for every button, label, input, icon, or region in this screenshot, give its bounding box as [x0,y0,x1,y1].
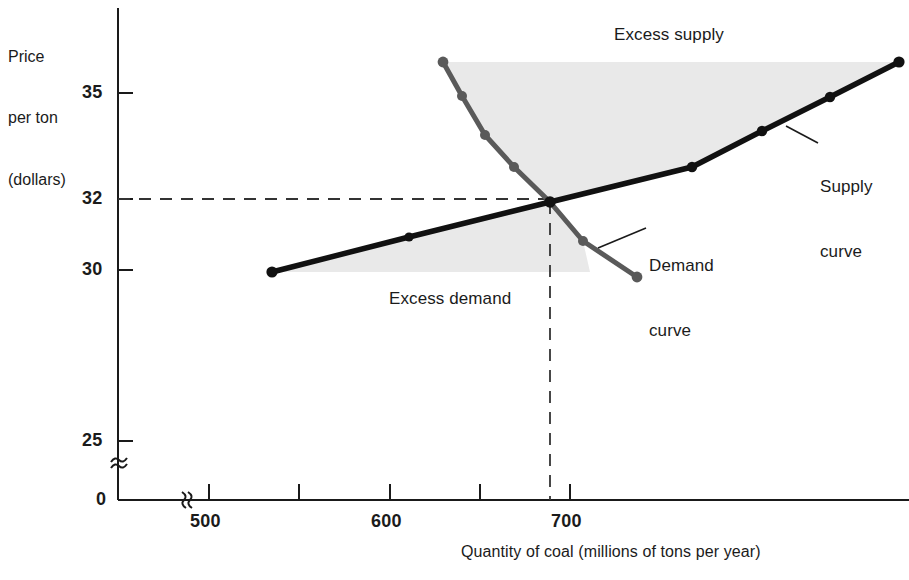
y-axis-title-line-3: (dollars) [8,170,66,190]
y-axis-title: Price per ton (dollars) [8,6,66,231]
x-axis-title: Quantity of coal (millions of tons per y… [461,542,761,562]
y-axis-title-line-1: Price [8,47,66,67]
x-tick-label-600: 600 [371,510,402,533]
equilibrium-point [544,196,556,208]
y-tick-label-0: 0 [96,488,106,511]
x-tick-label-700: 700 [551,510,582,533]
supply-curve-label-line-2: curve [820,241,873,263]
demand-curve-leader-line [598,228,646,248]
supply-curve-leader-line [786,126,818,143]
supply-curve-label: Supply curve [820,132,873,306]
y-axis-title-line-2: per ton [8,108,66,128]
y-tick-label-30: 30 [82,258,102,281]
supply-curve-label-line-1: Supply [820,176,873,198]
demand-curve-label-line-2: curve [649,320,714,342]
demand-curve-label-line-1: Demand [649,255,714,277]
demand-curve-label: Demand curve [649,211,714,385]
x-tick-label-500: 500 [190,510,221,533]
excess-supply-label: Excess supply [614,24,724,46]
y-tick-label-32: 32 [82,187,102,210]
y-tick-label-25: 25 [82,429,102,452]
supply-demand-chart: Price per ton (dollars) 35 32 30 25 0 50… [0,0,909,580]
excess-demand-label: Excess demand [389,288,511,310]
y-tick-label-35: 35 [82,81,102,104]
